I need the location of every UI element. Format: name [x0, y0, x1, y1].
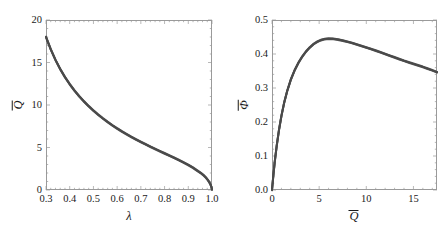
xtick-label-right-2: 10	[361, 194, 372, 205]
ytick-label-right-2: 0.2	[255, 117, 268, 128]
yaxis-title-left: Q	[12, 100, 25, 109]
ytick-label-right-3: 0.3	[255, 83, 268, 94]
figure-root: 20 15 10 5 0 0.3 0.4 0.5 0.6 0.7 0.8 0.9…	[0, 0, 448, 236]
chart-panel-left: 20 15 10 5 0 0.3 0.4 0.5 0.6 0.7 0.8 0.9…	[0, 0, 224, 236]
xtick-label-left-7: 1.0	[205, 194, 218, 205]
ytick-label-left-1: 5	[37, 142, 42, 153]
ytick-label-right-1: 0.1	[255, 151, 268, 162]
chart-panel-right: 0.5 0.4 0.3 0.2 0.1 0.0 0 5 10 15 Q Φ	[224, 0, 448, 236]
xtick-label-left-0: 0.3	[39, 194, 52, 205]
xtick-label-left-5: 0.8	[158, 194, 171, 205]
xtick-label-right-1: 5	[316, 194, 321, 205]
ytick-label-right-0: 0.0	[255, 185, 268, 196]
xaxis-title-right: Q	[349, 210, 358, 223]
ytick-label-right-5: 0.5	[255, 15, 268, 26]
xtick-label-right-3: 15	[408, 194, 419, 205]
yaxis-title-right: Φ	[238, 100, 251, 110]
xaxis-title-left: λ	[126, 210, 131, 223]
xtick-label-left-3: 0.6	[111, 194, 124, 205]
xtick-label-left-6: 0.9	[182, 194, 195, 205]
xtick-label-left-1: 0.4	[63, 194, 76, 205]
xtick-label-left-4: 0.7	[134, 194, 147, 205]
ytick-label-right-4: 0.4	[255, 49, 268, 60]
ytick-label-left-3: 15	[32, 57, 43, 68]
ytick-label-left-2: 10	[32, 100, 43, 111]
xtick-label-left-2: 0.5	[87, 194, 100, 205]
xtick-label-right-0: 0	[269, 194, 274, 205]
ytick-label-left-4: 20	[32, 15, 43, 26]
